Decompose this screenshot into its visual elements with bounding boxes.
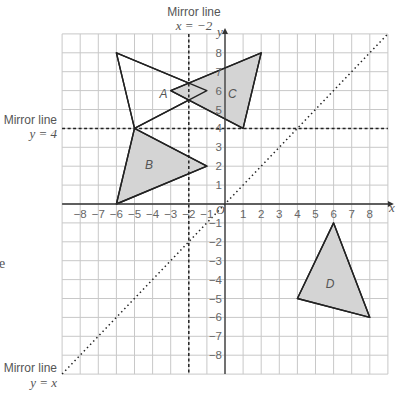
mirror-line-x-equation: x = −2 <box>175 18 213 33</box>
mirror-line-diag-equation: y = x <box>28 375 57 390</box>
x-tick-label: 4 <box>294 208 301 220</box>
mirror-line-diag-title: Mirror line <box>4 361 58 375</box>
origin-label: O <box>216 203 225 217</box>
y-tick-label: 8 <box>216 47 222 59</box>
cropped-text-fragment: e <box>0 256 5 271</box>
y-tick-label: −8 <box>209 349 222 361</box>
x-tick-label: −5 <box>128 208 141 220</box>
x-tick-label: −8 <box>74 208 87 220</box>
x-tick-label: 8 <box>367 208 373 220</box>
x-tick-label: −4 <box>146 208 160 220</box>
x-tick-label: 3 <box>276 208 282 220</box>
y-tick-label: −3 <box>209 255 222 267</box>
y-axis-label: y <box>215 24 223 39</box>
y-axis-arrow-icon <box>222 28 228 34</box>
x-tick-label: −6 <box>110 208 123 220</box>
x-tick-label: −7 <box>92 208 105 220</box>
mirror-line-y-equation: y = 4 <box>27 126 57 141</box>
x-axis-label: x <box>388 200 395 215</box>
y-tick-label: −4 <box>209 274 223 286</box>
x-tick-label: 6 <box>330 208 336 220</box>
y-tick-label: −1 <box>209 217 222 229</box>
y-tick-label: −7 <box>209 330 222 342</box>
y-tick-label: −5 <box>209 293 222 305</box>
y-tick-label: 5 <box>216 104 222 116</box>
y-tick-label: 6 <box>216 85 222 97</box>
x-tick-label: 5 <box>312 208 318 220</box>
x-tick-label: −3 <box>164 208 177 220</box>
coordinate-grid-diagram: xyO −8−7−6−5−4−3−2−11234567887654321−1−2… <box>0 0 396 396</box>
mirror-line-x-title: Mirror line <box>167 5 221 19</box>
y-tick-label: −2 <box>209 236 222 248</box>
x-tick-label: 1 <box>240 208 246 220</box>
y-tick-label: 4 <box>216 122 223 134</box>
shape-label-a: A <box>158 87 167 101</box>
y-tick-label: 3 <box>216 141 222 153</box>
x-tick-label: 7 <box>348 208 354 220</box>
triangle-d <box>297 223 369 318</box>
triangle-b <box>116 128 206 204</box>
shape-label-d: D <box>326 277 335 291</box>
x-tick-label: −2 <box>182 208 195 220</box>
y-tick-label: 1 <box>216 179 222 191</box>
mirror-line-y-title: Mirror line <box>4 113 58 127</box>
shape-label-b: B <box>145 158 153 172</box>
y-tick-label: −6 <box>209 311 222 323</box>
y-tick-label: 7 <box>216 66 222 78</box>
y-tick-label: 2 <box>216 160 222 172</box>
shape-label-c: C <box>228 87 237 101</box>
x-tick-label: 2 <box>258 208 264 220</box>
